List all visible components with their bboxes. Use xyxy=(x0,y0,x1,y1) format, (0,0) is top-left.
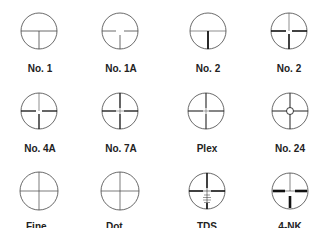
reticle-no2b: No. 2 xyxy=(249,8,323,84)
reticle-4nk-icon xyxy=(250,168,323,218)
reticle-tds: TDS xyxy=(167,168,247,228)
reticle-no24: No. 24 xyxy=(250,88,323,164)
reticle-no4a-icon xyxy=(0,88,80,138)
reticle-label: TDS xyxy=(167,221,247,228)
reticle-label: No. 2 xyxy=(249,63,323,74)
reticle-no1: No. 1 xyxy=(0,8,80,84)
reticle-fine: Fine xyxy=(0,168,80,228)
reticle-no1a-icon xyxy=(81,8,161,58)
reticle-no2-icon xyxy=(168,8,248,58)
reticle-no4a: No. 4A xyxy=(0,88,80,164)
reticle-no24-icon xyxy=(250,88,323,138)
reticle-label: No. 24 xyxy=(250,143,323,154)
reticle-plex: Plex xyxy=(167,88,247,164)
reticle-dot: Dot xyxy=(81,168,161,228)
reticle-label: Plex xyxy=(167,143,247,154)
reticle-label: No. 7A xyxy=(81,143,161,154)
reticle-fine-icon xyxy=(0,168,80,218)
reticle-plex-icon xyxy=(167,88,247,138)
reticle-no7a-icon xyxy=(81,88,161,138)
reticle-label: No. 2 xyxy=(168,63,248,74)
reticle-no2b-icon xyxy=(249,8,323,58)
reticle-dot-icon xyxy=(81,168,161,218)
reticle-label: Fine xyxy=(0,221,80,228)
reticle-label: No. 4A xyxy=(0,143,80,154)
reticle-4nk: 4-NK xyxy=(250,168,323,228)
reticle-no7a: No. 7A xyxy=(81,88,161,164)
reticle-no1-icon xyxy=(0,8,80,58)
reticle-label: No. 1 xyxy=(0,63,80,74)
reticle-label: Dot xyxy=(81,221,161,228)
reticle-tds-icon xyxy=(167,168,247,218)
reticle-label: 4-NK xyxy=(250,221,323,228)
reticle-label: No. 1A xyxy=(81,63,161,74)
reticle-no1a: No. 1A xyxy=(81,8,161,84)
reticle-no2: No. 2 xyxy=(168,8,248,84)
